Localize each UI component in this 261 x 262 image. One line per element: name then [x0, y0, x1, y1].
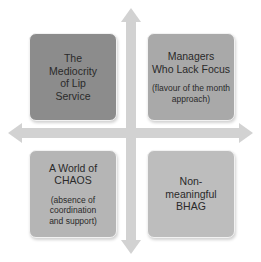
quadrant-world-of-chaos: A World of CHAOS (absence of coordinatio… — [29, 150, 117, 238]
quadrant-mediocrity-of-lip-service: The Mediocrity of Lip Service — [29, 33, 117, 121]
quadrant-subtitle: (absence of coordination and support) — [49, 195, 97, 227]
quadrant-title: A World of CHAOS — [49, 162, 97, 187]
quadrant-title: Managers Who Lack Focus — [152, 50, 230, 75]
quadrant-title: The Mediocrity of Lip Service — [49, 52, 97, 102]
quadrant-subtitle: (flavour of the month approach) — [152, 83, 230, 104]
quadrant-title: Non- meaningful BHAG — [165, 175, 216, 213]
quadrant-non-meaningful-bhag: Non- meaningful BHAG — [147, 150, 235, 238]
quadrant-managers-lack-focus: Managers Who Lack Focus (flavour of the … — [147, 33, 235, 121]
